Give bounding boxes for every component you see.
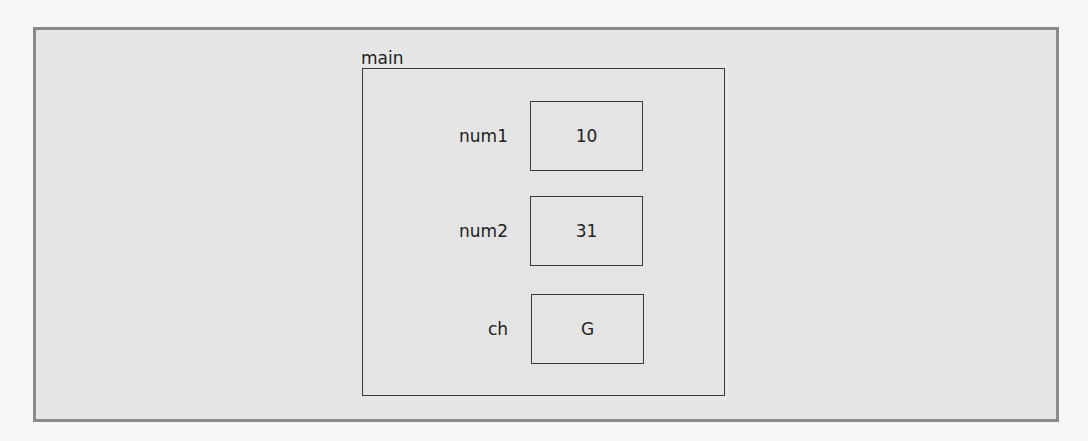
variable-label-num2: num2 [388,221,508,241]
stack-frame-label: main [361,48,403,68]
variable-value-ch: G [581,319,594,339]
variable-label-ch: ch [388,319,508,339]
variable-box-num1: 10 [530,101,643,171]
variable-value-num1: 10 [576,126,598,146]
variable-box-ch: G [531,294,644,364]
variable-value-num2: 31 [576,221,598,241]
variable-label-num1: num1 [388,126,508,146]
variable-box-num2: 31 [530,196,643,266]
